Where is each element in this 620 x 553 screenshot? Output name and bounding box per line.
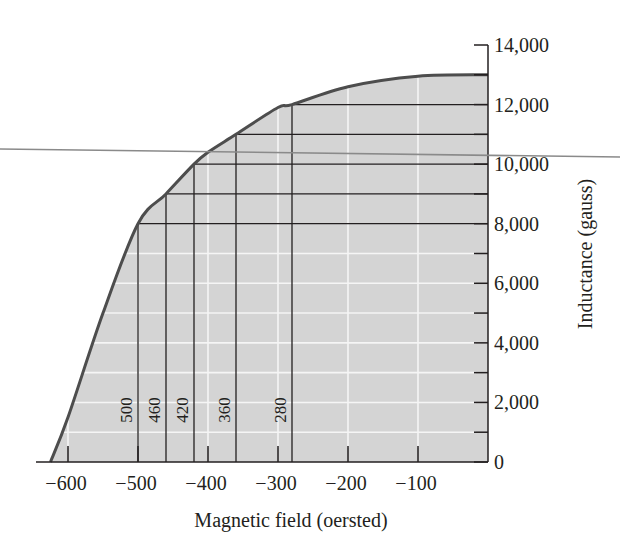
y-tick-label: 12,000 <box>494 94 549 116</box>
reference-line-label: 280 <box>271 397 290 423</box>
y-tick-label: 8,000 <box>494 213 539 235</box>
x-tick-label: −600 <box>45 472 86 494</box>
x-tick-label: −200 <box>325 472 366 494</box>
x-tick-label: −400 <box>185 472 226 494</box>
reference-line-label: 360 <box>215 397 234 423</box>
bh-curve-chart: −600−500−400−300−200−100 02,0004,0006,00… <box>0 0 620 553</box>
y-tick-label: 4,000 <box>494 332 539 354</box>
y-tick-labels: 02,0004,0006,0008,00010,00012,00014,000 <box>494 34 549 473</box>
reference-line-label: 460 <box>145 397 164 423</box>
y-tick-label: 14,000 <box>494 34 549 56</box>
x-tick-labels: −600−500−400−300−200−100 <box>45 472 436 494</box>
reference-line-label: 500 <box>117 397 136 423</box>
y-axis-title: Inductance (gauss) <box>574 179 597 330</box>
x-tick-label: −300 <box>255 472 296 494</box>
x-axis-title: Magnetic field (oersted) <box>194 509 387 532</box>
x-tick-label: −500 <box>115 472 156 494</box>
y-tick-label: 2,000 <box>494 391 539 413</box>
x-tick-label: −100 <box>395 472 436 494</box>
y-tick-label: 6,000 <box>494 272 539 294</box>
y-tick-label: 0 <box>494 451 504 473</box>
reference-line-label: 420 <box>173 397 192 423</box>
